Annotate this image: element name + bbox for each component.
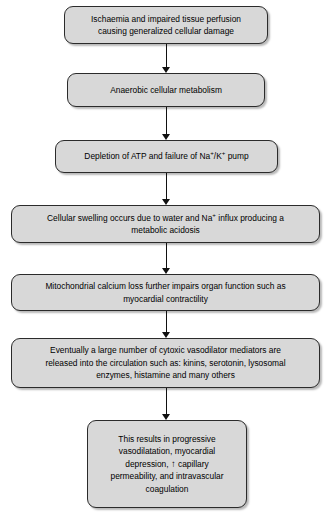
flowchart-node-1: Ischaemia and impaired tissue perfusion … [64,6,268,44]
connector-node-1-to-node-2 [161,44,172,73]
flowchart-node-4-text-before: Cellular swelling occurs due to water an… [47,213,212,223]
connector-shaft [166,173,167,199]
connector-shaft [166,311,167,332]
flowchart-node-3: Depletion of ATP and failure of Na+/K+ p… [55,140,278,173]
connector-shaft [166,107,167,134]
flowchart-node-6: Eventually a large number of cytoxic vas… [11,338,320,388]
flowchart-node-3-text-before: Depletion of ATP and failure of Na [84,151,210,161]
flowchart-node-7-label: This results in progressive vasodilatati… [94,433,240,495]
flowchart-node-4-label: Cellular swelling occurs due to water an… [18,212,313,237]
flowchart-node-6-label: Eventually a large number of cytoxic vas… [18,344,313,381]
flowchart-node-4: Cellular swelling occurs due to water an… [11,205,320,243]
flowchart-node-3-text-after: pump [225,151,248,161]
flowchart-node-5-label: Mitochondrial calcium loss further impai… [18,280,313,305]
connector-node-6-to-node-7 [161,388,172,420]
flowchart-diagram: Ischaemia and impaired tissue perfusion … [0,0,331,517]
flowchart-node-3-text-middle: /K [214,151,222,161]
flowchart-node-3-label: Depletion of ATP and failure of Na+/K+ p… [62,150,271,162]
connector-shaft [166,243,167,268]
connector-node-3-to-node-4 [161,173,172,205]
connector-shaft [166,388,167,414]
flowchart-node-5: Mitochondrial calcium loss further impai… [11,274,320,311]
connector-node-5-to-node-6 [161,311,172,338]
flowchart-node-7: This results in progressive vasodilatati… [87,420,247,508]
connector-node-2-to-node-3 [161,107,172,140]
connector-shaft [166,44,167,67]
flowchart-node-2: Anaerobic cellular metabolism [67,73,265,107]
flowchart-node-2-label: Anaerobic cellular metabolism [74,84,258,96]
connector-node-4-to-node-5 [161,243,172,274]
flowchart-node-1-label: Ischaemia and impaired tissue perfusion … [71,13,261,38]
